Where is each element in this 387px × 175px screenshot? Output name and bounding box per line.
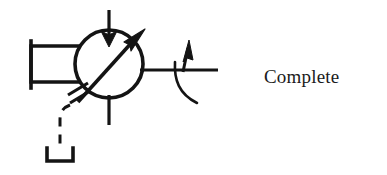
label-layer: Complete <box>0 0 387 175</box>
diagram-page: Complete <box>0 0 387 175</box>
diagram-caption: Complete <box>264 67 339 86</box>
